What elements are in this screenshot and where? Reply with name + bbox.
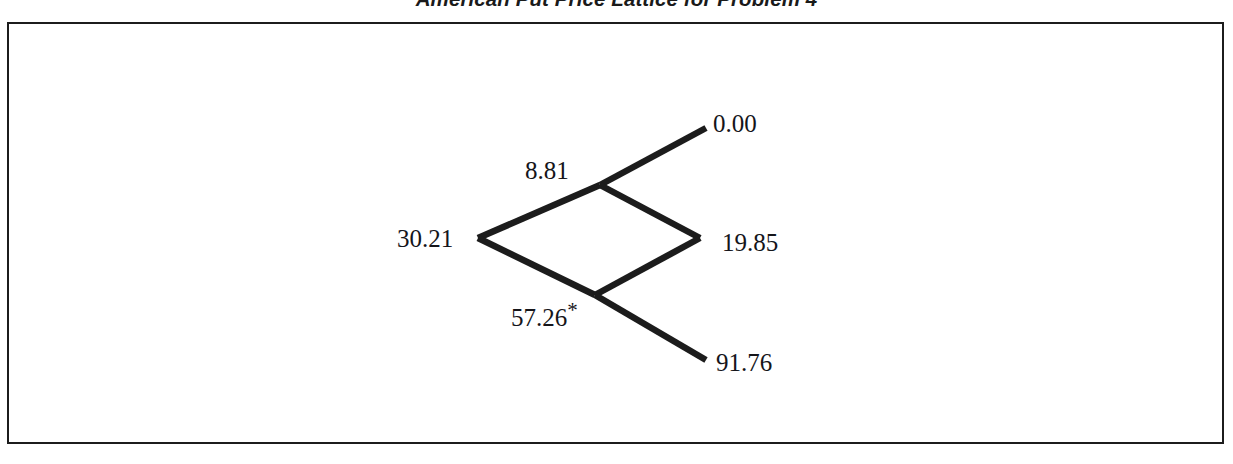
page-title: American Put Price Lattice for Problem 4: [0, 0, 1233, 11]
node-value-root: 30.21: [397, 226, 453, 251]
node-value-downdown: 91.76: [716, 350, 772, 375]
figure-frame-border: [7, 22, 1224, 444]
node-value-updown: 19.85: [722, 230, 778, 255]
node-value-down: 57.26*: [511, 305, 578, 330]
node-value-up: 8.81: [525, 158, 569, 183]
figure-page: American Put Price Lattice for Problem 4…: [0, 0, 1233, 464]
early-exercise-asterisk: *: [567, 298, 578, 322]
node-value-upup: 0.00: [713, 111, 757, 136]
